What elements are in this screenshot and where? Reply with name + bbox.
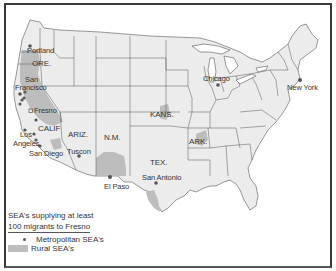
city-label-new-york: New York <box>287 84 318 92</box>
state-label-kansas: KANS. <box>150 111 174 119</box>
rural-sea-nm <box>96 152 126 176</box>
legend-item-rural: Rural SEA's <box>8 244 104 253</box>
calif-dot <box>34 118 37 121</box>
map-legend: SEA's supplying at least 100 migrants to… <box>8 212 104 253</box>
legend-title-line1: SEA's supplying at least <box>8 212 104 220</box>
city-label-los: Los <box>20 131 32 139</box>
metro-dot-icon <box>23 238 26 241</box>
chicago-dot <box>216 83 220 87</box>
city-label-san-antonio: San Antonio <box>142 174 181 182</box>
city-label-san-diego: San Diego <box>29 150 63 158</box>
legend-title-line2: 100 migrants to Fresno <box>8 223 90 233</box>
sf-dot-3 <box>20 98 23 101</box>
city-label-portland: Portland <box>27 47 54 55</box>
state-label-arizona: ARIZ. <box>68 131 88 139</box>
city-label-el-paso: El Paso <box>104 183 129 191</box>
new-york-dot <box>298 78 302 82</box>
sf-dot-5 <box>19 103 22 106</box>
city-label-francisco: Francisco <box>15 84 47 92</box>
rural-swatch-icon <box>8 245 28 252</box>
la-dot-2 <box>32 132 35 135</box>
city-label-chicago: Chicago <box>203 75 230 83</box>
state-label-new-mexico: N.M. <box>104 134 121 142</box>
el-paso-dot <box>108 175 112 179</box>
state-label-texas: TEX. <box>150 159 167 167</box>
legend-label-metro: Metropolitan SEA's <box>36 236 104 244</box>
sf-dot-1 <box>18 92 22 96</box>
state-label-california: CALIF <box>38 125 60 133</box>
state-label-oregon: ORE. <box>32 60 51 68</box>
legend-item-metro: Metropolitan SEA's <box>8 235 104 244</box>
state-label-arkansas: ARK. <box>189 138 207 146</box>
legend-label-rural: Rural SEA's <box>31 245 74 253</box>
city-label-angeles: Angeles <box>13 140 39 148</box>
city-label-fresno: Fresno <box>34 107 57 115</box>
city-label-tuscon: Tuscon <box>67 148 91 156</box>
